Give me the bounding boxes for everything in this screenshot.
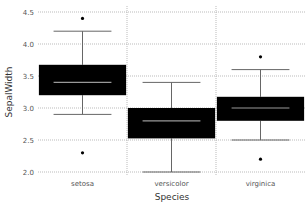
box-virginica — [217, 55, 304, 161]
outlier-point — [259, 55, 262, 58]
boxplot-chart: 2.02.53.03.54.04.5 setosaversicolorvirgi… — [0, 0, 306, 206]
box-versicolor — [128, 82, 215, 172]
y-axis-ticks: 2.02.53.03.54.04.5 — [23, 9, 34, 177]
box-iqr — [217, 97, 304, 121]
y-axis-label: SepalWidth — [4, 66, 14, 117]
x-axis-ticks: setosaversicolorvirginica — [71, 180, 275, 188]
x-tick-label: setosa — [71, 180, 94, 188]
boxes — [39, 17, 304, 172]
box-iqr — [128, 108, 215, 138]
outlier-point — [81, 17, 84, 20]
x-tick-label: virginica — [246, 180, 276, 188]
y-tick-label: 4.5 — [23, 9, 34, 17]
y-tick-label: 2.0 — [23, 169, 34, 177]
y-tick-label: 4.0 — [23, 41, 34, 49]
x-tick-label: versicolor — [154, 180, 188, 188]
x-axis-label: Species — [155, 192, 190, 202]
y-tick-label: 3.5 — [23, 73, 34, 81]
outlier-point — [81, 151, 84, 154]
y-tick-label: 2.5 — [23, 137, 34, 145]
box-iqr — [39, 65, 126, 95]
box-setosa — [39, 17, 126, 155]
outlier-point — [259, 158, 262, 161]
y-tick-label: 3.0 — [23, 105, 34, 113]
